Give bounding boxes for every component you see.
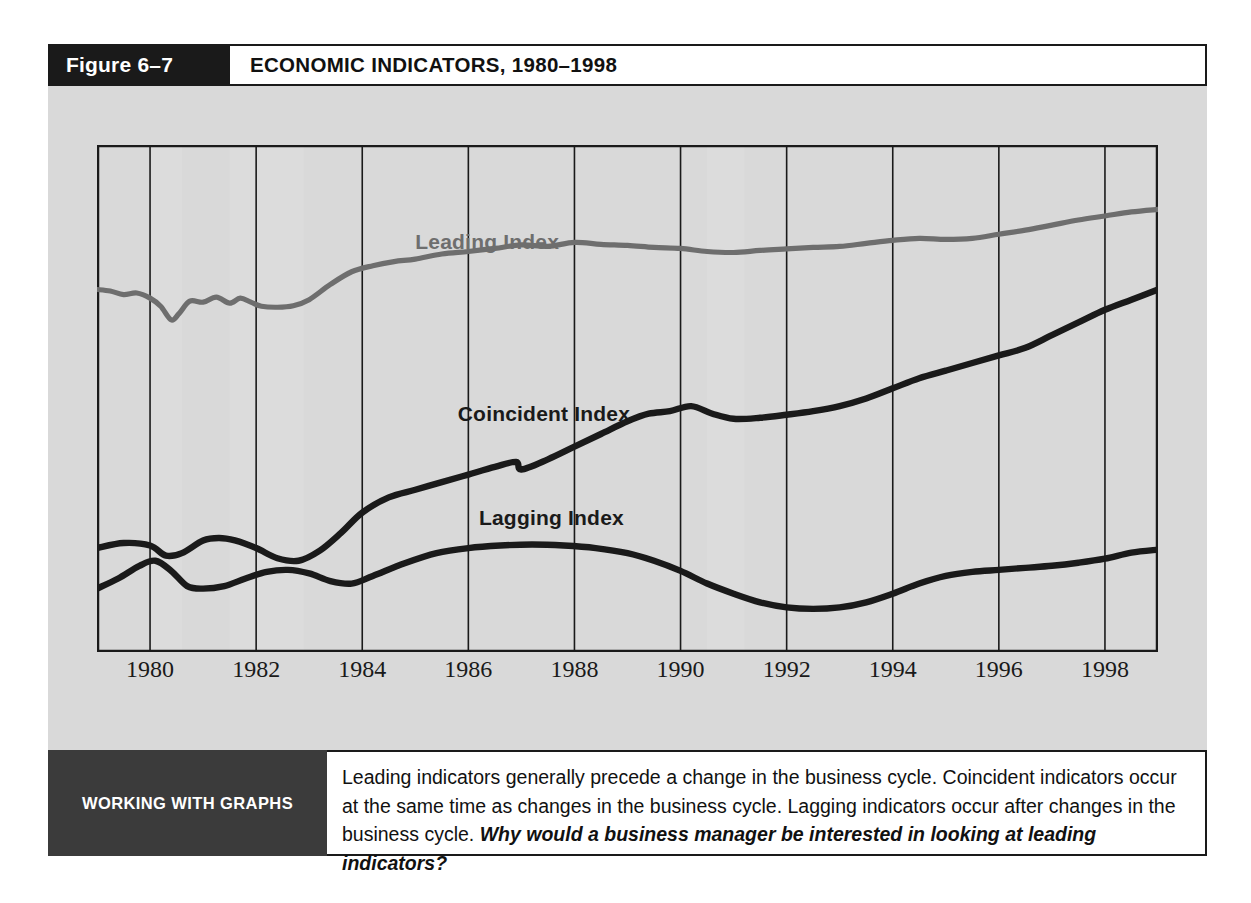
caption-tag: WORKING WITH GRAPHS bbox=[48, 750, 327, 856]
figure-title-bar: Figure 6–7 ECONOMIC INDICATORS, 1980–199… bbox=[48, 44, 1207, 86]
x-axis-tick-labels: 1980198219841986198819901992199419961998 bbox=[97, 656, 1158, 690]
x-tick-label-1988: 1988 bbox=[550, 656, 598, 683]
economic-indicators-line-chart bbox=[97, 145, 1158, 652]
x-tick-label-1996: 1996 bbox=[975, 656, 1023, 683]
series-label-leading-index: Leading Index bbox=[415, 230, 559, 254]
x-tick-label-1994: 1994 bbox=[869, 656, 917, 683]
series-label-coincident-index: Coincident Index bbox=[458, 402, 630, 426]
figure-container: Figure 6–7 ECONOMIC INDICATORS, 1980–199… bbox=[48, 44, 1207, 856]
caption-strip: WORKING WITH GRAPHS Leading indicators g… bbox=[48, 750, 1207, 856]
recession-band bbox=[707, 146, 744, 651]
caption-body: Leading indicators generally precede a c… bbox=[327, 750, 1207, 856]
plot-area: Leading Index Coincident Index Lagging I… bbox=[97, 145, 1158, 652]
page-title: ECONOMIC INDICATORS, 1980–1998 bbox=[230, 44, 1207, 86]
recession-bands-layer bbox=[150, 146, 744, 651]
x-tick-label-1984: 1984 bbox=[338, 656, 386, 683]
x-tick-label-1986: 1986 bbox=[444, 656, 492, 683]
x-tick-label-1998: 1998 bbox=[1081, 656, 1129, 683]
figure-number: Figure 6–7 bbox=[48, 44, 230, 86]
x-tick-label-1980: 1980 bbox=[126, 656, 174, 683]
series-label-lagging-index: Lagging Index bbox=[479, 506, 624, 530]
x-tick-label-1982: 1982 bbox=[232, 656, 280, 683]
x-tick-label-1990: 1990 bbox=[657, 656, 705, 683]
x-tick-label-1992: 1992 bbox=[763, 656, 811, 683]
chart-panel: Leading Index Coincident Index Lagging I… bbox=[48, 86, 1207, 750]
recession-band bbox=[230, 146, 304, 651]
